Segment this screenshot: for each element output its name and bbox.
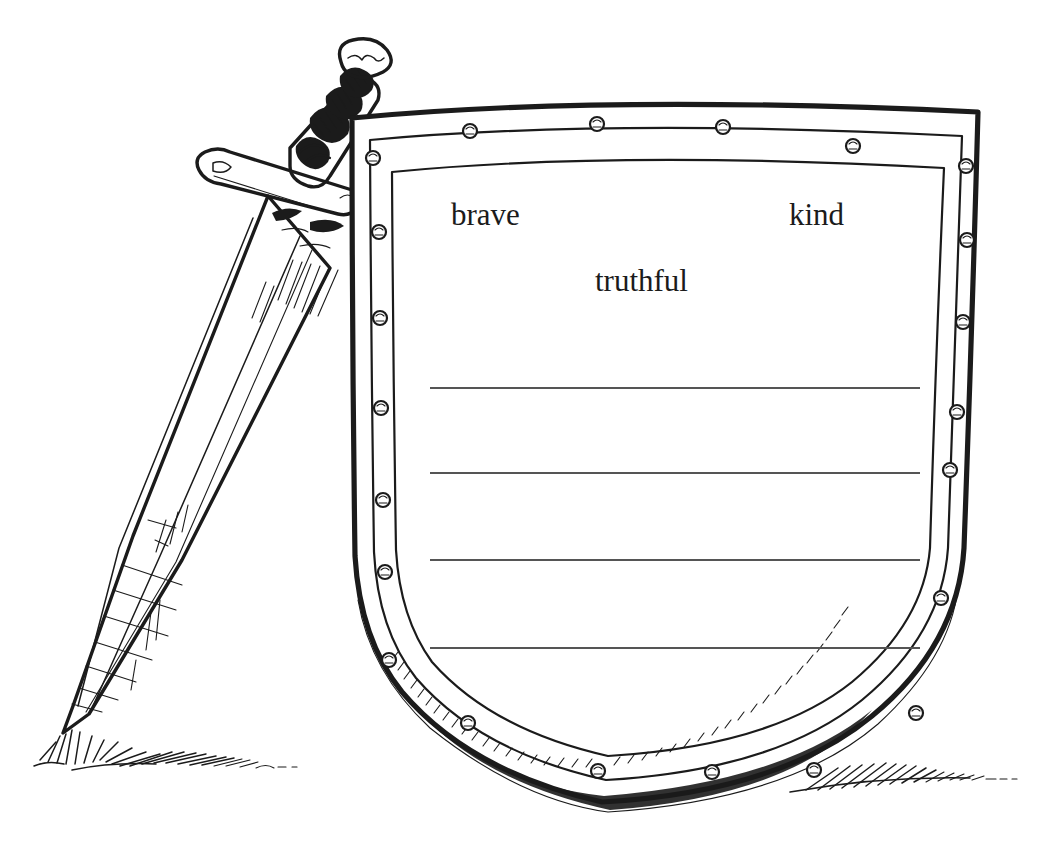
rivet (909, 706, 923, 720)
prompt-word-brave: brave (451, 199, 520, 230)
rivet (807, 763, 821, 777)
prompt-word-truthful: truthful (595, 265, 688, 296)
rivet (461, 716, 475, 730)
sword-blade (63, 196, 330, 733)
rivet (372, 225, 386, 239)
rivet (846, 139, 860, 153)
rivet (705, 765, 719, 779)
rivet (960, 233, 974, 247)
prompt-word-kind: kind (789, 199, 844, 230)
rivet (716, 120, 730, 134)
rivet (463, 124, 477, 138)
rivet (374, 401, 388, 415)
rivet (950, 405, 964, 419)
rivet (376, 493, 390, 507)
rivet (591, 764, 605, 778)
sword-icon (63, 39, 391, 733)
rivet (373, 311, 387, 325)
shield-outer-rim (352, 104, 978, 802)
rivet (382, 653, 396, 667)
rivet (956, 315, 970, 329)
worksheet-page: .ln { fill:none; stroke:#1b1b1b; stroke-… (0, 0, 1051, 865)
rivet (590, 117, 604, 131)
shield (352, 104, 978, 812)
rivet (934, 591, 948, 605)
illustration: .ln { fill:none; stroke:#1b1b1b; stroke-… (0, 0, 1051, 865)
grass-left-icon (34, 730, 297, 770)
grass-right-icon (790, 763, 1017, 792)
rivet (366, 151, 380, 165)
rivet (959, 159, 973, 173)
rivet (378, 565, 392, 579)
rivet (943, 463, 957, 477)
